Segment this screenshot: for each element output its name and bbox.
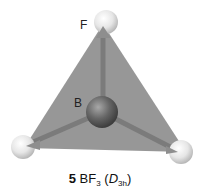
bf3-structure-diagram xyxy=(0,0,200,196)
fluorine-label: F xyxy=(80,18,87,32)
caption: 5 BF3 (D3h) xyxy=(0,171,200,188)
boron-atom xyxy=(86,96,118,128)
fluorine-atom-top xyxy=(94,10,118,34)
point-group: (D3h) xyxy=(104,171,131,186)
boron-label: B xyxy=(74,96,82,110)
formula: BF3 xyxy=(80,171,101,186)
compound-number: 5 xyxy=(69,171,76,186)
